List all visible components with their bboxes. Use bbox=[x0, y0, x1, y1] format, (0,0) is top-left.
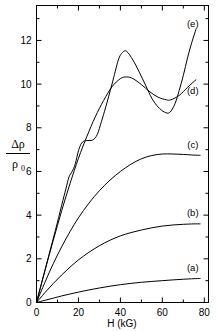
y-tick-label-2: 2 bbox=[26, 253, 32, 264]
y-tick-label-4: 4 bbox=[26, 210, 32, 221]
curve-label-a: (a) bbox=[187, 262, 199, 273]
figure-container: 020406080 024681012 (a)(b)(c)(d)(e) H (k… bbox=[0, 0, 219, 331]
x-tick-label-20: 20 bbox=[73, 307, 85, 318]
x-axis-label-group: H (kG) bbox=[107, 318, 136, 329]
y-tick-label-0: 0 bbox=[26, 297, 32, 308]
x-axis-label: H (kG) bbox=[107, 318, 136, 329]
y-axis-label-denominator: ρ bbox=[12, 157, 18, 171]
x-tick-label-60: 60 bbox=[157, 307, 169, 318]
curve-label-b: (b) bbox=[187, 207, 199, 218]
y-axis-label-denominator-subscript: 0 bbox=[21, 164, 25, 173]
y-axis-label-numerator: Δρ bbox=[11, 137, 25, 151]
y-tick-label-12: 12 bbox=[20, 35, 32, 46]
curve-label-d: (d) bbox=[187, 85, 199, 96]
curve-label-c: (c) bbox=[187, 139, 198, 150]
y-tick-label-10: 10 bbox=[20, 79, 32, 90]
y-tick-label-8: 8 bbox=[26, 122, 32, 133]
y-tick-label-6: 6 bbox=[26, 166, 32, 177]
x-tick-label-80: 80 bbox=[199, 307, 211, 318]
x-tick-label-40: 40 bbox=[115, 307, 127, 318]
curve-label-e: (e) bbox=[187, 18, 199, 29]
plot-background bbox=[0, 0, 219, 331]
magnetoresistance-plot: 020406080 024681012 (a)(b)(c)(d)(e) H (k… bbox=[0, 0, 219, 331]
x-tick-label-0: 0 bbox=[34, 307, 40, 318]
